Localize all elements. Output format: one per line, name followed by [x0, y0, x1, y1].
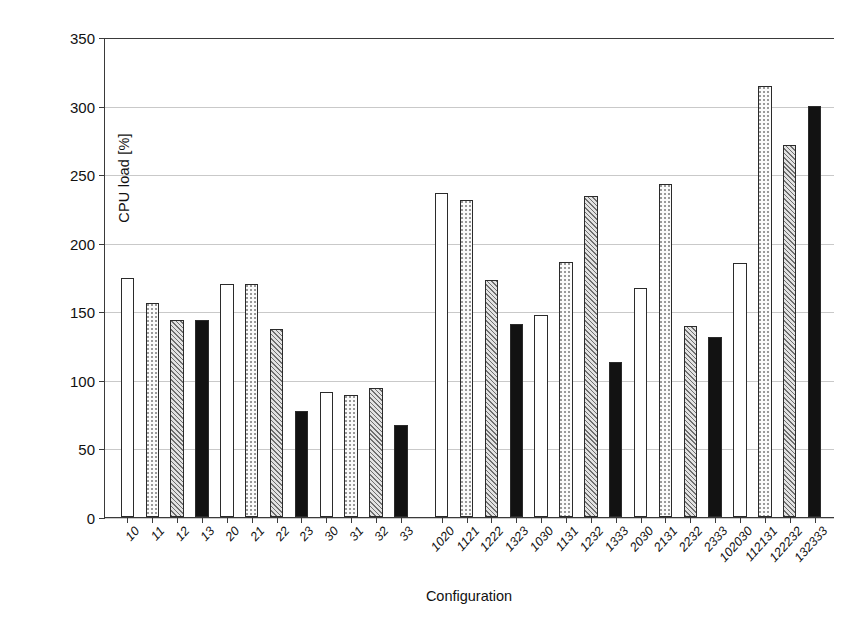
x-tick-label: 1323 — [502, 524, 531, 554]
gridline — [105, 518, 834, 519]
y-tick-mark — [99, 312, 105, 313]
bar — [270, 329, 284, 517]
x-tick-mark — [616, 517, 617, 523]
y-tick-mark — [99, 38, 105, 39]
bar — [659, 184, 673, 517]
x-tick-mark — [177, 517, 178, 523]
x-tick-mark — [301, 517, 302, 523]
x-tick-mark — [740, 517, 741, 523]
bar — [170, 320, 184, 517]
x-tick-mark — [566, 517, 567, 523]
bar — [559, 262, 573, 517]
gridline — [105, 107, 834, 108]
x-tick-mark — [467, 517, 468, 523]
x-tick-label: 2131 — [652, 524, 681, 554]
x-tick-label: 33 — [396, 524, 416, 544]
y-tick-label: 0 — [87, 510, 95, 527]
x-tick-label: 1333 — [602, 524, 631, 554]
y-tick-mark — [99, 381, 105, 382]
x-tick-label: 1131 — [553, 524, 582, 554]
gridline — [105, 38, 834, 39]
bar — [684, 326, 698, 517]
x-tick-mark — [790, 517, 791, 523]
y-tick-mark — [99, 244, 105, 245]
y-tick-label: 300 — [70, 98, 95, 115]
y-tick-label: 200 — [70, 235, 95, 252]
x-tick-label: 12 — [173, 524, 193, 544]
y-tick-mark — [99, 107, 105, 108]
x-tick-label: 1222 — [478, 524, 507, 554]
x-tick-label: 20 — [222, 524, 242, 544]
x-tick-mark — [815, 517, 816, 523]
gridline — [105, 175, 834, 176]
x-tick-mark — [202, 517, 203, 523]
x-tick-label: 10 — [123, 524, 143, 544]
x-tick-mark — [591, 517, 592, 523]
x-tick-label: 1020 — [428, 524, 457, 554]
x-tick-label: 1121 — [453, 524, 482, 554]
x-tick-label: 30 — [322, 524, 342, 544]
y-tick-label: 100 — [70, 372, 95, 389]
y-tick-label: 50 — [78, 441, 95, 458]
x-tick-mark — [665, 517, 666, 523]
bar — [245, 284, 259, 517]
x-tick-mark — [376, 517, 377, 523]
x-tick-mark — [152, 517, 153, 523]
plot-area: 050100150200250300350 — [104, 38, 834, 518]
x-tick-mark — [541, 517, 542, 523]
bar — [584, 196, 598, 517]
bar — [435, 193, 449, 517]
x-tick-mark — [491, 517, 492, 523]
x-tick-mark — [516, 517, 517, 523]
bar — [195, 320, 209, 517]
x-tick-label: 1030 — [527, 524, 556, 554]
y-tick-label: 350 — [70, 30, 95, 47]
x-tick-mark — [641, 517, 642, 523]
x-tick-mark — [227, 517, 228, 523]
bar — [758, 86, 772, 517]
bar — [220, 284, 234, 517]
x-tick-label: 2232 — [676, 524, 705, 554]
bar — [808, 106, 822, 517]
x-tick-label: 1232 — [577, 524, 606, 554]
x-tick-mark — [765, 517, 766, 523]
bar — [534, 315, 548, 517]
bar — [344, 395, 358, 517]
bar — [783, 145, 797, 517]
y-tick-mark — [99, 518, 105, 519]
bar — [320, 392, 334, 517]
bar — [369, 388, 383, 517]
x-tick-label: 31 — [347, 524, 367, 544]
bar — [708, 337, 722, 517]
x-tick-label: 32 — [372, 524, 392, 544]
x-tick-label: 22 — [272, 524, 292, 544]
bar — [485, 280, 499, 517]
bar — [121, 278, 135, 517]
x-tick-label: 2030 — [627, 524, 656, 554]
bar — [146, 303, 160, 517]
x-tick-mark — [401, 517, 402, 523]
x-tick-mark — [690, 517, 691, 523]
y-tick-mark — [99, 449, 105, 450]
x-tick-label: 11 — [148, 524, 167, 543]
x-tick-mark — [715, 517, 716, 523]
bar — [634, 288, 648, 517]
x-tick-label: 21 — [247, 524, 267, 544]
bar — [609, 362, 623, 517]
x-tick-mark — [326, 517, 327, 523]
y-tick-label: 250 — [70, 167, 95, 184]
bar — [394, 425, 408, 517]
bar — [460, 200, 474, 517]
bar — [510, 324, 524, 517]
x-tick-mark — [442, 517, 443, 523]
chart-figure: CPU load [%] 050100150200250300350 Confi… — [0, 0, 857, 644]
x-tick-mark — [351, 517, 352, 523]
x-tick-mark — [277, 517, 278, 523]
bar — [733, 263, 747, 517]
y-tick-label: 150 — [70, 304, 95, 321]
bar — [295, 411, 309, 517]
x-tick-mark — [127, 517, 128, 523]
x-tick-label: 13 — [198, 524, 218, 544]
x-tick-mark — [252, 517, 253, 523]
x-tick-label: 23 — [297, 524, 317, 544]
